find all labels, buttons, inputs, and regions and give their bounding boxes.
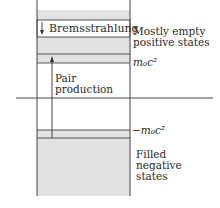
positive-states-label-line2: positive states — [133, 37, 210, 48]
up-arrow-icon — [50, 56, 54, 138]
negative-energy-label: −m₀c² — [132, 125, 165, 136]
bremsstrahlung-label: Bremsstrahlung — [49, 23, 139, 34]
negative-states-label-line3: states — [136, 171, 168, 182]
pair-production-label-line2: production — [55, 84, 113, 95]
positive-energy-label: m₀c² — [133, 57, 157, 68]
lower-band — [37, 130, 130, 196]
